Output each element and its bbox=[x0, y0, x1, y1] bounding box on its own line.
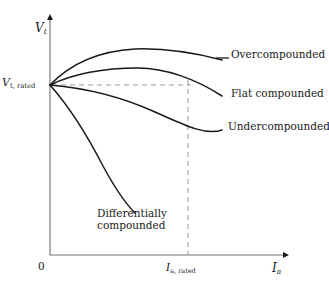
y-axis-label: Vt bbox=[35, 22, 47, 35]
curve-annotation-flat-compounded: Flat compounded bbox=[231, 88, 324, 100]
curve-annotation-diff-line2: compounded bbox=[97, 220, 167, 232]
y-rated-subscript: t, rated bbox=[10, 82, 36, 90]
y-axis-symbol: V bbox=[35, 21, 44, 35]
x-axis-label: Ia bbox=[272, 262, 281, 275]
curve-annotation-overcompounded: Overcompounded bbox=[231, 49, 325, 61]
x-axis-rated-tick-label: Ia, rated bbox=[166, 262, 196, 274]
y-axis-subscript: t bbox=[44, 27, 47, 36]
x-axis-subscript: a bbox=[277, 267, 281, 276]
origin-label: 0 bbox=[38, 261, 45, 273]
y-axis-rated-tick-label: Vt, rated bbox=[2, 77, 35, 89]
curve-differentially-compounded bbox=[50, 85, 135, 213]
curve-annotation-diff-line1: Differentially bbox=[97, 207, 167, 219]
curve-overcompounded bbox=[50, 49, 222, 85]
figure-canvas: Vt Vt, rated 0 Ia, rated Ia Overcompound… bbox=[0, 0, 329, 290]
curve-annotation-undercompounded: Undercompounded bbox=[228, 121, 329, 133]
x-rated-subscript: a, rated bbox=[170, 267, 196, 275]
chart-plot-area bbox=[0, 0, 329, 290]
curve-undercompounded bbox=[50, 85, 222, 132]
curve-annotation-differentially-compounded: Differentially compounded bbox=[97, 208, 167, 232]
curve-flat-compounded bbox=[50, 68, 222, 96]
y-rated-symbol: V bbox=[2, 76, 10, 89]
